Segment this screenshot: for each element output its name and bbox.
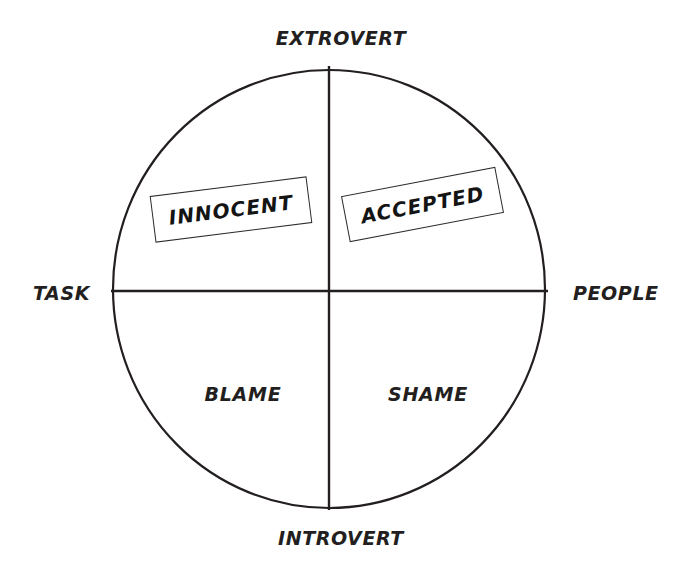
- axis-label-introvert: INTROVERT: [0, 527, 682, 549]
- quadrant-label-shame: SHAME: [380, 383, 476, 405]
- quadrant-label-blame: BLAME: [195, 383, 291, 405]
- axis-label-extrovert: EXTROVERT: [0, 27, 682, 49]
- axis-label-people: PEOPLE: [573, 282, 659, 304]
- quadrant-label-innocent: INNOCENT: [167, 190, 294, 230]
- axis-label-task: TASK: [33, 282, 90, 304]
